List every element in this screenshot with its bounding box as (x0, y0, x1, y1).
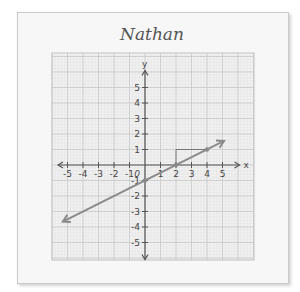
x-tick-label: 4 (204, 169, 210, 179)
y-tick-label: 3 (134, 114, 140, 124)
y-tick-label: 4 (134, 98, 140, 108)
x-tick-label: 2 (173, 169, 179, 179)
x-tick-label: -2 (110, 169, 119, 179)
x-tick-label: 5 (220, 169, 226, 179)
x-tick-label: 3 (189, 169, 195, 179)
y-tick-label: 2 (134, 129, 140, 139)
data-point (174, 163, 178, 167)
y-tick-label: -2 (131, 191, 140, 201)
y-tick-label: -4 (131, 222, 140, 232)
x-tick-label: -5 (63, 169, 72, 179)
y-tick-label: -3 (131, 207, 140, 217)
coordinate-plane: xy-5-4-3-2-101234554321-1-2-3-4-5 (0, 0, 300, 292)
data-point (205, 147, 209, 151)
y-tick-label: -5 (131, 238, 140, 248)
y-axis-label: y (142, 59, 148, 69)
y-tick-label: 1 (134, 145, 140, 155)
x-axis-label: x (244, 160, 250, 170)
y-tick-label: 5 (134, 83, 140, 93)
x-tick-label: -3 (94, 169, 103, 179)
data-point (143, 178, 147, 182)
x-tick-label: -4 (79, 169, 88, 179)
